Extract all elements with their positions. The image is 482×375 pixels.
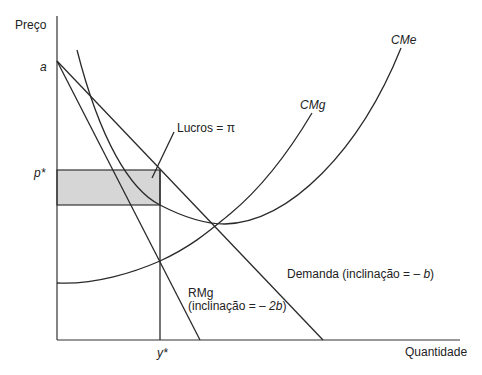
profit-leader-line (152, 132, 174, 178)
demand-label: Demanda (inclinação = – b) (287, 267, 434, 281)
marginal-revenue-slope-label: (inclinação = – 2b) (188, 299, 286, 313)
y-axis-label: Preço (15, 18, 47, 32)
tick-p-star: p* (33, 166, 46, 180)
profit-label: Lucros = π (177, 121, 235, 135)
tick-a: a (40, 60, 47, 74)
profit-area (57, 170, 160, 205)
monopoly-profit-diagram: Preço Quantidade a p* y* CMe CMg Lucros … (0, 0, 482, 375)
tick-y-star: y* (156, 346, 168, 360)
average-cost-label: CMe (391, 33, 417, 47)
marginal-cost-label: CMg (300, 98, 326, 112)
x-axis-label: Quantidade (405, 345, 467, 359)
marginal-revenue-label: RMg (188, 286, 213, 300)
